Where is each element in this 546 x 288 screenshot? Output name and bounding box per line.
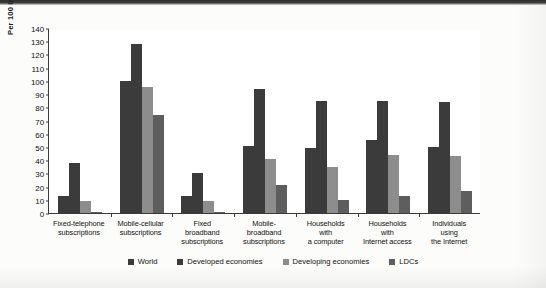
bar-chart-figure: Per 100 inhabitants/households 140130120… [0,5,546,288]
bar-group [49,29,111,213]
y-tick-label: 130 [31,38,44,47]
y-tick-label: 40 [35,157,44,166]
legend-item: Developing economies [283,257,370,266]
legend-item: LDCs [389,257,418,266]
bar-group [358,29,420,213]
x-tick-mark [296,213,297,217]
bar [243,146,254,213]
bar [439,102,450,213]
legend-label: Developing economies [293,257,370,266]
bar-group [419,29,481,213]
y-tick-label: 90 [35,91,44,100]
y-tick-label: 70 [35,117,44,126]
y-tick-label: 110 [32,64,44,73]
bar [450,156,461,213]
x-category-label: Fixed-telephonesubscriptions [48,219,110,237]
scanned-page: Per 100 inhabitants/households 140130120… [0,0,546,288]
bar-group [234,29,296,213]
x-category-label: HouseholdswithInternet access [357,219,419,247]
bar [327,167,338,213]
y-tick-label: 80 [35,104,44,113]
bar [203,201,214,213]
y-tick-label: 10 [35,196,44,205]
bar [192,173,203,213]
x-category-label: Mobile-cellularsubscriptions [110,219,172,237]
bar [153,115,164,213]
y-tick-label: 140 [31,25,44,34]
y-tick-label: 0 [40,210,44,219]
bar [91,212,102,213]
x-category-label: Mobile-broadbandsubscriptions [233,219,295,247]
bar [377,101,388,213]
legend-item: Developed economies [177,257,262,266]
bar [265,159,276,213]
x-tick-mark [111,213,112,217]
legend-swatch-icon [177,259,183,265]
plot-area: 1401301201101009080706050403020100 [48,29,480,214]
chart-legend: WorldDeveloped economiesDeveloping econo… [0,257,546,266]
y-tick-label: 50 [35,143,44,152]
x-category-label: Householdswitha computer [295,219,357,247]
legend-swatch-icon [283,259,289,265]
legend-swatch-icon [128,259,134,265]
y-tick-label: 100 [31,77,44,86]
bar-group [296,29,358,213]
bar [69,163,80,213]
bar [58,196,69,213]
bar [305,148,316,213]
bar [254,89,265,213]
y-tick-label: 30 [35,170,44,179]
bar [120,81,131,213]
bar [461,191,472,213]
y-tick-mark [46,214,49,215]
x-tick-mark [419,213,420,217]
y-axis-title: Per 100 inhabitants/households [6,0,20,35]
x-category-label: Fixedbroadbandsubscriptions [171,219,233,247]
bar [338,200,349,213]
legend-label: Developed economies [187,257,262,266]
bar [214,212,225,213]
x-tick-mark [234,213,235,217]
legend-item: World [128,257,158,266]
legend-label: World [138,257,158,266]
legend-label: LDCs [399,257,418,266]
bar [142,87,153,213]
y-tick-label: 20 [35,183,44,192]
x-category-label: Individualsusingthe Internet [418,219,480,247]
bar [388,155,399,213]
bar [316,101,327,213]
bar-group [111,29,173,213]
bar [181,196,192,213]
x-tick-mark [358,213,359,217]
bar [366,140,377,213]
bar-group [172,29,234,213]
legend-swatch-icon [389,259,395,265]
x-tick-mark [172,213,173,217]
y-tick-label: 120 [31,51,44,60]
bar [399,196,410,213]
bar [428,147,439,213]
bar [131,44,142,213]
bar [80,201,91,213]
y-tick-label: 60 [35,130,44,139]
bar [276,185,287,213]
